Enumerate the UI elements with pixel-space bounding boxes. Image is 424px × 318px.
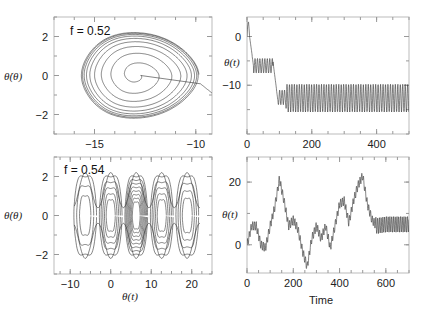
y-tick-label: −2 bbox=[35, 109, 48, 121]
y-tick-label: −10 bbox=[222, 79, 241, 91]
y-tick-label: 0 bbox=[42, 210, 48, 222]
ylabel-time-top: θ(t) bbox=[224, 56, 240, 69]
phase-trajectory bbox=[74, 173, 200, 259]
x-tick-label: 0 bbox=[244, 138, 250, 150]
x-tick-label: −10 bbox=[61, 278, 80, 290]
ylabel-time-bottom: θ(t) bbox=[222, 208, 238, 221]
axes-frame bbox=[247, 157, 409, 273]
x-tick-label: 400 bbox=[367, 138, 385, 150]
x-tick-label: 0 bbox=[108, 278, 114, 290]
x-tick-label: 0 bbox=[244, 277, 250, 289]
y-tick-label: −2 bbox=[35, 249, 48, 261]
x-tick-label: 10 bbox=[145, 278, 157, 290]
y-tick-label: 2 bbox=[42, 31, 48, 43]
figure: −15−10−202 02004000−10 −1001020−202 0200… bbox=[0, 0, 424, 318]
xlabel-time: Time bbox=[309, 294, 333, 306]
theta-timeseries bbox=[247, 173, 409, 268]
panel-timeseries-f052: 02004000−10 bbox=[222, 17, 409, 150]
annotation-f052: f = 0.52 bbox=[70, 24, 111, 38]
panel-phase-f054: −1001020−202 bbox=[35, 157, 212, 290]
y-tick-label: 20 bbox=[229, 176, 241, 188]
x-tick-label: 20 bbox=[186, 278, 198, 290]
x-tick-label: 600 bbox=[377, 277, 395, 289]
x-tick-label: −15 bbox=[85, 138, 104, 150]
x-tick-label: 200 bbox=[303, 138, 321, 150]
y-tick-label: 0 bbox=[235, 31, 241, 43]
x-tick-label: −10 bbox=[186, 138, 205, 150]
x-tick-label: 400 bbox=[330, 277, 348, 289]
x-tick-label: 200 bbox=[284, 277, 302, 289]
annotation-f054: f = 0.54 bbox=[64, 163, 105, 177]
phase-trajectory bbox=[81, 33, 212, 119]
panel-phase-f052: −15−10−202 bbox=[35, 17, 212, 150]
theta-timeseries bbox=[247, 22, 409, 112]
y-tick-label: 0 bbox=[235, 239, 241, 251]
panel-timeseries-f054: 0200400600020 bbox=[229, 157, 409, 289]
y-tick-label: 0 bbox=[42, 70, 48, 82]
ylabel-phase-bottom: θ̇(θ) bbox=[4, 209, 22, 222]
axes-frame bbox=[247, 17, 409, 134]
xlabel-phase-bottom: θ(t) bbox=[122, 290, 138, 303]
y-tick-label: 2 bbox=[42, 171, 48, 183]
ylabel-phase-top: θ̇(θ) bbox=[4, 70, 22, 83]
